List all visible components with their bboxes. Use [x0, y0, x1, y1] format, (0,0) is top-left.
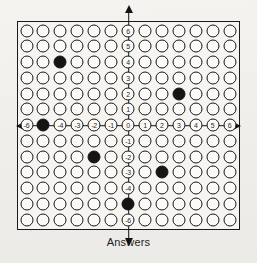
bubble[interactable]: [71, 40, 84, 53]
bubble[interactable]: [20, 40, 33, 53]
bubble[interactable]: [206, 213, 219, 226]
bubble[interactable]: [189, 24, 202, 37]
bubble[interactable]: [105, 134, 118, 147]
bubble[interactable]: [223, 40, 236, 53]
bubble[interactable]: 6: [122, 24, 135, 37]
bubble[interactable]: [105, 197, 118, 210]
bubble[interactable]: [206, 40, 219, 53]
bubble-filled[interactable]: [172, 87, 185, 100]
bubble[interactable]: [71, 213, 84, 226]
bubble[interactable]: [105, 71, 118, 84]
bubble-filled[interactable]: [122, 197, 135, 210]
bubble[interactable]: [223, 182, 236, 195]
bubble[interactable]: 1: [138, 119, 151, 132]
bubble[interactable]: [172, 40, 185, 53]
bubble[interactable]: [54, 213, 67, 226]
bubble[interactable]: [54, 150, 67, 163]
bubble[interactable]: [37, 56, 50, 69]
bubble[interactable]: [54, 103, 67, 116]
bubble[interactable]: [37, 71, 50, 84]
bubble[interactable]: 1: [122, 103, 135, 116]
bubble[interactable]: -2: [88, 119, 101, 132]
bubble[interactable]: [223, 166, 236, 179]
bubble[interactable]: [206, 103, 219, 116]
bubble-filled[interactable]: [54, 56, 67, 69]
bubble[interactable]: [20, 150, 33, 163]
bubble[interactable]: [189, 87, 202, 100]
bubble[interactable]: [206, 24, 219, 37]
bubble[interactable]: [20, 134, 33, 147]
bubble[interactable]: [71, 87, 84, 100]
bubble[interactable]: [155, 134, 168, 147]
bubble[interactable]: [138, 71, 151, 84]
bubble-filled[interactable]: [155, 166, 168, 179]
bubble[interactable]: [189, 40, 202, 53]
bubble[interactable]: [20, 166, 33, 179]
bubble[interactable]: 4: [189, 119, 202, 132]
bubble[interactable]: [71, 24, 84, 37]
bubble[interactable]: [88, 40, 101, 53]
bubble[interactable]: [88, 213, 101, 226]
bubble[interactable]: [138, 103, 151, 116]
bubble[interactable]: [172, 197, 185, 210]
bubble[interactable]: [172, 150, 185, 163]
bubble[interactable]: -2: [122, 150, 135, 163]
bubble[interactable]: [20, 213, 33, 226]
bubble[interactable]: [54, 24, 67, 37]
bubble[interactable]: [105, 182, 118, 195]
bubble[interactable]: [71, 56, 84, 69]
bubble[interactable]: [189, 56, 202, 69]
bubble[interactable]: [105, 213, 118, 226]
bubble[interactable]: [223, 103, 236, 116]
bubble[interactable]: [172, 182, 185, 195]
bubble[interactable]: [20, 71, 33, 84]
bubble[interactable]: [37, 40, 50, 53]
bubble[interactable]: [223, 150, 236, 163]
bubble[interactable]: [223, 213, 236, 226]
bubble[interactable]: [54, 40, 67, 53]
bubble[interactable]: [155, 213, 168, 226]
bubble[interactable]: [189, 166, 202, 179]
bubble[interactable]: [71, 103, 84, 116]
bubble[interactable]: [155, 56, 168, 69]
bubble[interactable]: [71, 166, 84, 179]
bubble[interactable]: [138, 182, 151, 195]
bubble[interactable]: [105, 56, 118, 69]
bubble[interactable]: [138, 87, 151, 100]
bubble[interactable]: [172, 166, 185, 179]
bubble[interactable]: [88, 56, 101, 69]
bubble[interactable]: [71, 197, 84, 210]
bubble[interactable]: 3: [122, 71, 135, 84]
bubble[interactable]: [223, 134, 236, 147]
bubble[interactable]: [172, 103, 185, 116]
bubble[interactable]: [155, 150, 168, 163]
bubble[interactable]: 2: [122, 87, 135, 100]
bubble[interactable]: [54, 134, 67, 147]
bubble[interactable]: [206, 87, 219, 100]
bubble[interactable]: [37, 134, 50, 147]
bubble[interactable]: [71, 71, 84, 84]
bubble[interactable]: [172, 71, 185, 84]
bubble[interactable]: [37, 197, 50, 210]
bubble[interactable]: [138, 166, 151, 179]
bubble[interactable]: [189, 103, 202, 116]
bubble[interactable]: 4: [122, 56, 135, 69]
bubble[interactable]: [88, 87, 101, 100]
bubble[interactable]: [206, 182, 219, 195]
bubble[interactable]: [105, 150, 118, 163]
bubble[interactable]: [37, 87, 50, 100]
bubble[interactable]: -3: [71, 119, 84, 132]
bubble[interactable]: [105, 24, 118, 37]
bubble[interactable]: [105, 40, 118, 53]
bubble[interactable]: [71, 182, 84, 195]
bubble[interactable]: [88, 71, 101, 84]
bubble[interactable]: [20, 87, 33, 100]
bubble[interactable]: [138, 150, 151, 163]
bubble[interactable]: [20, 197, 33, 210]
bubble[interactable]: [172, 213, 185, 226]
bubble[interactable]: [88, 134, 101, 147]
bubble[interactable]: [172, 134, 185, 147]
bubble[interactable]: [206, 71, 219, 84]
bubble[interactable]: [223, 71, 236, 84]
bubble[interactable]: [189, 150, 202, 163]
